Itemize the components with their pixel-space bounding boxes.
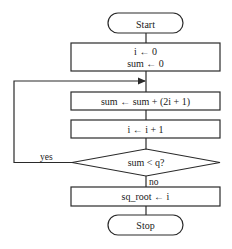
accumulate-label: sum ← sum + (2i + 1) [101,96,190,108]
init-process-box: i ← 0 sum ← 0 [71,43,220,71]
assign-process-box: sq_root ← i [71,187,220,206]
increment-label: i ← i + 1 [127,124,163,135]
decision-diamond: sum < q? [72,149,220,176]
stop-label: Stop [136,220,154,231]
stop-terminal: Stop [108,215,183,235]
assign-label: sq_root ← i [122,191,170,202]
start-label: Start [136,19,155,30]
yes-branch-label: yes [40,152,53,162]
decision-label: sum < q? [128,157,165,168]
accumulate-process-box: sum ← sum + (2i + 1) [71,92,220,110]
init-line-i: i ← 0 [134,46,157,57]
increment-process-box: i ← i + 1 [71,120,220,138]
start-terminal: Start [108,13,183,33]
flowchart: Start i ← 0 sum ← 0 sum ← sum + (2i + 1)… [0,0,232,249]
no-branch-label: no [149,177,159,187]
init-line-sum: sum ← 0 [127,58,164,69]
